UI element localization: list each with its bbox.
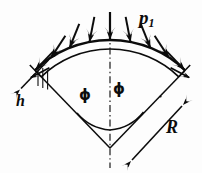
arch-diagram-figure: p1 h R ϕ ϕ	[0, 0, 202, 173]
half-angle-label-left: ϕ	[79, 88, 91, 103]
load-arrow-6	[120, 16, 136, 44]
load-arrow-4	[84, 16, 100, 44]
load-arrow-5	[104, 12, 115, 40]
arch-diagram-canvas	[0, 0, 202, 173]
pressure-load-arrows	[28, 12, 192, 82]
load-arrow-8	[150, 33, 174, 61]
half-angle-label-right: ϕ	[113, 82, 125, 97]
pressure-label-subscript: 1	[149, 16, 155, 30]
right-springing-line	[110, 65, 190, 148]
pressure-label-p1: p1	[139, 8, 155, 29]
radius-dimension-R	[121, 95, 193, 172]
angle-arc-left	[77, 113, 110, 130]
pressure-label-symbol: p	[139, 7, 149, 28]
angle-arc-right	[110, 112, 144, 130]
radius-label-R: R	[166, 118, 178, 136]
load-arrow-2	[47, 33, 71, 61]
radius-reference-dot	[159, 95, 161, 97]
left-springing-line	[30, 65, 110, 148]
thickness-label-h: h	[16, 93, 25, 109]
